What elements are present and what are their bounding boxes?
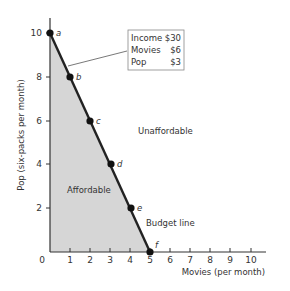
svg-text:$3: $3	[170, 57, 181, 67]
svg-text:Pop: Pop	[131, 57, 146, 67]
svg-text:2: 2	[36, 203, 42, 213]
svg-text:10: 10	[245, 255, 257, 265]
point-f	[146, 248, 153, 255]
x-tick-labels: 0 1 2 3 4 5 6 7 8 9 10	[39, 255, 257, 265]
unaffordable-label: Unaffordable	[138, 126, 193, 136]
point-e	[127, 204, 134, 211]
price-income-box: Income $30 Movies $6 Pop $3	[128, 30, 184, 70]
svg-text:3: 3	[107, 255, 113, 265]
svg-text:10: 10	[31, 28, 43, 38]
budget-line-chart: 10 8 6 4 2 0 1 2 3 4 5 6 7 8 9 10 Movies…	[0, 0, 290, 291]
y-axis-title: Pop (six-packs per month)	[16, 79, 26, 190]
svg-text:6: 6	[36, 116, 42, 126]
affordable-label: Affordable	[67, 185, 111, 195]
svg-text:7: 7	[187, 255, 193, 265]
svg-text:a: a	[56, 28, 61, 38]
svg-text:d: d	[117, 159, 123, 169]
svg-text:1: 1	[67, 255, 73, 265]
legend-connector	[68, 51, 127, 66]
svg-text:$30: $30	[165, 33, 181, 43]
svg-text:4: 4	[127, 255, 133, 265]
point-c	[86, 117, 93, 124]
svg-text:4: 4	[36, 159, 42, 169]
svg-text:$6: $6	[170, 45, 181, 55]
svg-text:Income: Income	[131, 33, 162, 43]
svg-text:6: 6	[167, 255, 173, 265]
point-b	[66, 73, 73, 80]
svg-text:Movies: Movies	[131, 45, 161, 55]
svg-text:c: c	[96, 116, 101, 126]
svg-text:8: 8	[207, 255, 213, 265]
y-tick-labels: 10 8 6 4 2	[31, 28, 43, 213]
svg-text:f: f	[155, 240, 160, 250]
svg-text:8: 8	[36, 72, 42, 82]
svg-text:5: 5	[147, 255, 153, 265]
point-a	[46, 29, 53, 36]
svg-text:e: e	[137, 203, 142, 213]
svg-text:b: b	[76, 72, 81, 82]
svg-text:0: 0	[39, 255, 45, 265]
budget-line-label: Budget line	[146, 218, 195, 228]
x-axis-title: Movies (per month)	[182, 267, 265, 277]
point-d	[107, 160, 114, 167]
svg-text:2: 2	[87, 255, 93, 265]
svg-text:9: 9	[227, 255, 233, 265]
